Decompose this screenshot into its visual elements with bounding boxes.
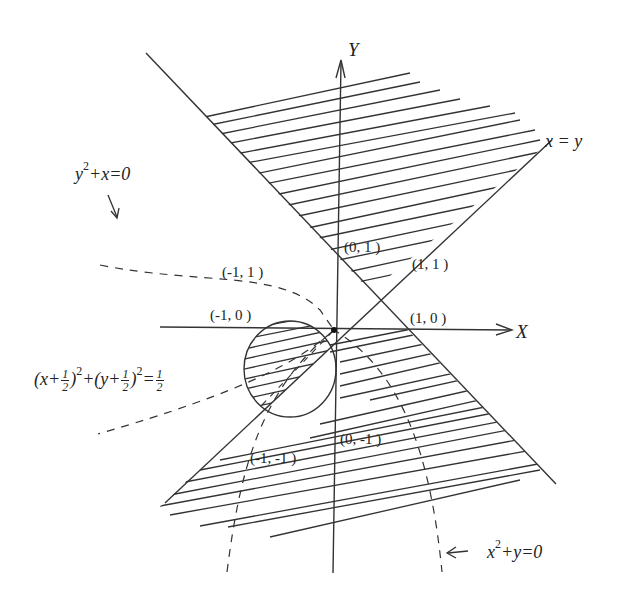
y-axis: [333, 60, 345, 573]
label-base: y: [75, 164, 83, 184]
inner-dashed-chord: [262, 330, 334, 405]
eq-open1: (x+: [34, 369, 60, 389]
circle-equation-label: (x+12)2+(y+12)2=12: [34, 368, 165, 393]
eq-plus: +(y+: [82, 369, 120, 389]
point-label-neg1-0: (-1, 0 ): [210, 308, 251, 323]
eq-equals: =: [142, 369, 154, 389]
point-label-1-0: (1, 0 ): [410, 311, 446, 326]
eq-frac1: 12: [61, 368, 69, 393]
point-label-neg1-neg1: (-1, -1 ): [250, 451, 296, 466]
point-label-0-neg1: (0, -1 ): [340, 432, 381, 447]
y-axis-label: Y: [348, 40, 359, 59]
point-label-0-1: (0, 1 ): [344, 240, 380, 255]
line-x-plus-y-eq-1: [146, 53, 556, 484]
point-label-1-1: (1, 1 ): [412, 257, 448, 272]
eq-exp1: 2: [76, 364, 82, 378]
label-base: x: [487, 542, 495, 562]
x-axis-label: X: [516, 322, 528, 341]
label-rest: +y=0: [501, 542, 542, 562]
eq-frac2: 12: [121, 368, 129, 393]
parabola-y2-plus-x-curve: [98, 265, 334, 434]
line-x-eq-y-label: x = y: [545, 132, 582, 150]
eq-rhs: 12: [156, 368, 164, 393]
label-exp: 2: [495, 537, 501, 551]
arrow-to-y2-curve: [108, 195, 119, 218]
label-rest: +x=0: [89, 164, 130, 184]
arrow-to-x2-curve: [447, 547, 468, 558]
eq-exp2: 2: [136, 364, 142, 378]
label-exp: 2: [83, 159, 89, 173]
lower-hatching: [160, 300, 560, 537]
origin-dot: [331, 327, 337, 333]
parabola-y2-plus-x-label: y2+x=0: [75, 165, 130, 183]
point-label-neg1-1: (-1, 1 ): [222, 265, 263, 280]
parabola-x2-plus-y-label: x2+y=0: [487, 543, 542, 561]
diagram-canvas: [0, 0, 617, 606]
